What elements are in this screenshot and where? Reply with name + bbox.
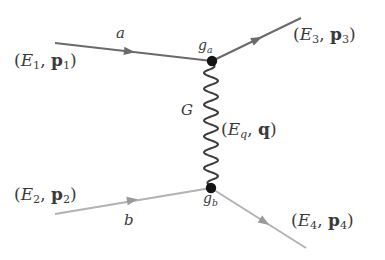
label-momentum-p4: (E4, p4) bbox=[291, 212, 354, 231]
label-particle-b: b bbox=[124, 213, 134, 228]
label-momentum-p3: (E3, p3) bbox=[293, 26, 356, 45]
label-momentum-p2: (E2, p2) bbox=[14, 186, 77, 205]
label-vertex-coupling-ga: ga bbox=[198, 38, 212, 54]
label-particle-a: a bbox=[116, 26, 125, 41]
label-momentum-p1: (E1, p1) bbox=[14, 52, 77, 71]
vertex-dot-ga bbox=[207, 56, 217, 66]
arrowhead-outgoing-4 bbox=[258, 215, 272, 228]
arrowhead-incoming-a bbox=[124, 47, 136, 57]
label-vertex-coupling-gb: gb bbox=[203, 191, 218, 207]
feynman-diagram: (E1, p1) a (E3, p3) ga G (Eq, q) gb (E2,… bbox=[0, 0, 385, 260]
boson-propagator-wavy-line bbox=[204, 61, 218, 188]
label-momentum-q: (Eq, q) bbox=[221, 121, 277, 140]
arrowhead-outgoing-3 bbox=[250, 33, 264, 45]
label-boson-G: G bbox=[181, 103, 193, 118]
